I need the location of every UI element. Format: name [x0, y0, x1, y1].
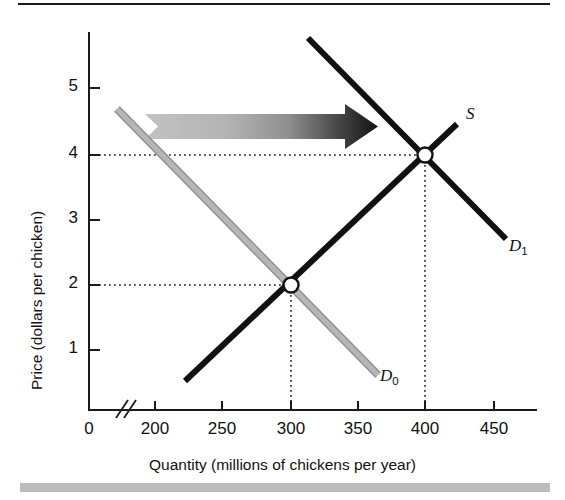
equilibrium-marker-new — [418, 148, 433, 163]
supply-demand-figure: 5 4 3 2 1 0 200 250 300 350 400 450 Pric… — [0, 0, 565, 500]
d0-line — [117, 109, 378, 375]
curve-label-d0: D0 — [380, 366, 399, 387]
y-tick-label-2: 2 — [54, 273, 78, 293]
curve-supply — [185, 124, 457, 381]
curve-label-s-text: S — [466, 104, 475, 123]
axes — [89, 32, 537, 418]
curve-label-s: S — [466, 104, 475, 124]
x-tick-label-450: 450 — [468, 419, 520, 439]
x-tick-label-400: 400 — [399, 419, 451, 439]
x-tick-label-250: 250 — [196, 419, 248, 439]
y-tick-label-5: 5 — [54, 76, 78, 96]
y-tick-label-4: 4 — [54, 143, 78, 163]
x-tick-label-300: 300 — [265, 419, 317, 439]
x-tick-label-200: 200 — [129, 419, 181, 439]
y-axis-title: Price (dollars per chicken) — [28, 211, 46, 390]
curve-label-d0-text: D — [380, 366, 392, 385]
equilibrium-marker-initial — [284, 278, 299, 293]
y-tick-label-3: 3 — [54, 208, 78, 228]
curve-label-d1-text: D — [509, 236, 521, 255]
x-tick-label-0: 0 — [63, 419, 115, 439]
s-line — [185, 124, 457, 381]
y-tick-label-1: 1 — [54, 338, 78, 358]
demand-shift-arrow — [145, 104, 378, 149]
x-tick-label-350: 350 — [332, 419, 384, 439]
curve-label-d0-sub: 0 — [392, 375, 398, 387]
x-axis-title: Quantity (millions of chickens per year) — [0, 456, 565, 474]
curve-label-d1: D1 — [509, 236, 528, 257]
arrow-shape — [145, 104, 378, 149]
curve-label-d1-sub: 1 — [521, 245, 527, 257]
curve-demand-original — [117, 109, 378, 375]
